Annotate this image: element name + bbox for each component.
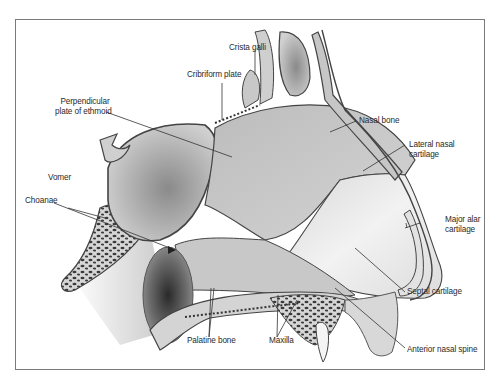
upper-lip bbox=[345, 292, 398, 356]
label-major-alar-cartilage-line1: Major alar bbox=[445, 215, 480, 225]
frontal-sinus bbox=[279, 32, 310, 96]
label-nasal-bone: Nasal bone bbox=[359, 116, 399, 126]
label-lateral-nasal-cartilage-line1: Lateral nasal bbox=[409, 140, 455, 150]
label-crista-galli: Crista galli bbox=[229, 43, 266, 53]
label-cribriform-plate: Cribriform plate bbox=[187, 70, 241, 80]
label-perpendicular-plate-line1: Perpendicular bbox=[55, 97, 115, 107]
sphenoid-sinus bbox=[108, 124, 217, 241]
label-palatine-bone: Palatine bone bbox=[187, 336, 236, 346]
label-vomer: Vomer bbox=[48, 173, 71, 183]
label-perpendicular-plate-line2: plate of ethmoid bbox=[55, 107, 112, 117]
label-choanae: Choanae bbox=[25, 196, 58, 206]
label-major-alar-cartilage-line2: cartilage bbox=[445, 225, 475, 235]
crista-galli-shape bbox=[242, 70, 259, 108]
label-lateral-nasal-cartilage-line2: cartilage bbox=[409, 150, 439, 160]
label-maxilla: Maxilla bbox=[269, 336, 294, 346]
nasal-septum-illustration bbox=[0, 0, 503, 388]
label-septal-cartilage: Septal cartilage bbox=[407, 287, 462, 297]
label-anterior-nasal-spine: Anterior nasal spine bbox=[407, 345, 477, 355]
incisor-tooth bbox=[316, 322, 329, 362]
